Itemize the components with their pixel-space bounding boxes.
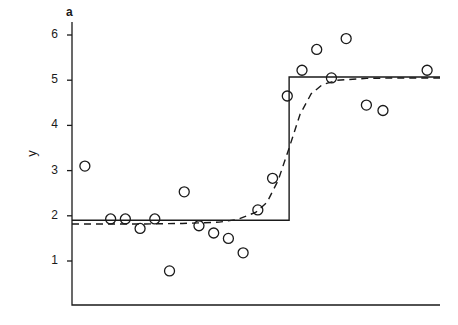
y-tick-label: 5 (38, 72, 58, 86)
panel-label: a (66, 5, 73, 19)
smooth-fit-line (72, 78, 440, 224)
axis-ticks (67, 35, 72, 261)
axis-lines (72, 22, 440, 305)
data-point-marker (253, 205, 263, 215)
data-point-marker (209, 228, 219, 238)
scatter-plot-canvas (0, 0, 458, 325)
data-point-marker (80, 161, 90, 171)
data-point-marker (312, 44, 322, 54)
data-point-marker (106, 214, 116, 224)
y-tick-label: 6 (38, 27, 58, 41)
data-point-marker (238, 248, 248, 258)
y-tick-label: 3 (38, 163, 58, 177)
data-point-marker (179, 187, 189, 197)
step-fit-line (72, 77, 440, 220)
data-point-marker (422, 65, 432, 75)
data-point-marker (378, 105, 388, 115)
y-tick-label: 4 (38, 117, 58, 131)
y-axis-label: y (24, 137, 39, 171)
data-point-marker (297, 65, 307, 75)
data-point-marker (120, 214, 130, 224)
data-point-marker (223, 233, 233, 243)
data-point-marker (361, 100, 371, 110)
data-point-marker (268, 173, 278, 183)
data-point-marker (282, 91, 292, 101)
y-tick-label: 2 (38, 208, 58, 222)
data-points (80, 34, 432, 276)
y-tick-label: 1 (38, 253, 58, 267)
data-point-marker (165, 266, 175, 276)
chart-figure: a y 123456 (0, 0, 458, 325)
data-point-marker (135, 223, 145, 233)
data-point-marker (341, 34, 351, 44)
data-point-marker (150, 214, 160, 224)
